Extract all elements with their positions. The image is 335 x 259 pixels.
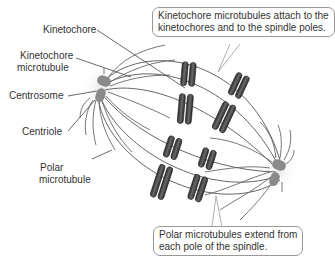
- chromosome: [150, 135, 183, 200]
- chromosome: [211, 72, 250, 134]
- top-callout: Kinetochore microtubules attach to the k…: [152, 7, 335, 37]
- bottom-callout-line1: Polar microtubules extend from: [159, 229, 297, 241]
- top-callout-line2: kinetochores and to the spindle poles.: [158, 22, 329, 34]
- label-polar-microtubule-line2: microtubule: [39, 174, 91, 185]
- chromosome: [177, 61, 196, 124]
- label-kinetochore: Kinetochore: [43, 24, 96, 35]
- label-polar-microtubule-line1: Polar: [40, 162, 63, 173]
- label-kinetochore-microtubule-line2: microtubule: [17, 62, 69, 73]
- bottom-callout: Polar microtubules extend from each pole…: [153, 226, 303, 256]
- top-callout-tail: [218, 44, 240, 72]
- chromosome: [187, 147, 217, 203]
- label-kinetochore-microtubule-line1: Kinetochore: [20, 50, 73, 61]
- label-centrosome: Centrosome: [9, 90, 63, 101]
- polar-microtubule-leader: [92, 150, 112, 159]
- centriole-leader: [68, 100, 95, 131]
- label-centriole: Centriole: [22, 126, 62, 137]
- bottom-callout-tail: [212, 196, 222, 227]
- top-callout-line1: Kinetochore microtubules attach to the: [158, 10, 329, 22]
- bottom-callout-line2: each pole of the spindle.: [159, 241, 297, 253]
